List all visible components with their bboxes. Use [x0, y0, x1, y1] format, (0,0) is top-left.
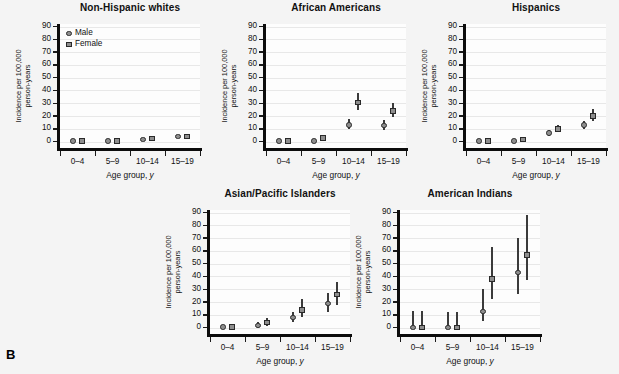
y-tick	[393, 289, 397, 290]
y-tick	[459, 39, 463, 40]
x-tick	[540, 337, 541, 342]
error-bar	[517, 238, 518, 294]
y-tick	[393, 237, 397, 238]
chart-panel: American Indians0102030405060708090Incid…	[348, 188, 554, 374]
x-tick	[200, 151, 201, 156]
gridline	[466, 129, 606, 130]
y-axis-label: Incidence per 100,000person-years	[420, 24, 438, 148]
y-tick	[53, 26, 57, 27]
x-tick	[165, 151, 166, 156]
x-tick-label: 10–14	[130, 157, 165, 166]
gridline	[210, 289, 350, 290]
data-point-male	[70, 138, 76, 144]
chart-title: Non-Hispanic whites	[60, 2, 200, 13]
gridline	[60, 52, 200, 53]
x-tick	[95, 151, 96, 156]
gridline	[210, 315, 350, 316]
panel-letter: B	[6, 347, 15, 362]
x-tick-label: 15–19	[315, 343, 350, 352]
y-tick	[203, 250, 207, 251]
data-point-female	[355, 100, 361, 106]
y-axis	[57, 24, 60, 151]
data-point-female	[489, 276, 495, 282]
gridline	[60, 129, 200, 130]
x-axis-label-text: Age group,	[512, 170, 555, 180]
y-tick	[259, 39, 263, 40]
x-tick-label: 0–4	[60, 157, 95, 166]
data-point-male	[476, 138, 482, 144]
y-tick	[459, 90, 463, 91]
y-tick	[393, 327, 397, 328]
y-tick	[259, 51, 263, 52]
y-axis	[263, 24, 266, 151]
data-point-female	[590, 113, 596, 119]
x-tick-label: 10–14	[536, 157, 571, 166]
x-tick	[466, 151, 467, 156]
data-point-female	[454, 325, 460, 331]
y-axis-label-line1: Incidence per 100,000	[164, 210, 173, 334]
gridline	[60, 116, 200, 117]
x-tick	[245, 337, 246, 342]
y-tick	[393, 225, 397, 226]
data-point-male	[105, 138, 111, 144]
x-axis-label-text: Age group,	[312, 170, 355, 180]
y-tick	[53, 64, 57, 65]
x-tick-label: 5–9	[501, 157, 536, 166]
gridline	[400, 213, 540, 214]
data-point-female	[264, 320, 270, 326]
x-tick	[606, 151, 607, 156]
gridline	[210, 276, 350, 277]
plot-area	[466, 24, 606, 148]
y-tick	[393, 250, 397, 251]
y-axis-label-line2: person-years	[173, 210, 182, 334]
y-tick	[459, 51, 463, 52]
gridline	[210, 238, 350, 239]
y-tick	[53, 141, 57, 142]
gridline	[400, 276, 540, 277]
y-tick	[459, 64, 463, 65]
data-point-male	[581, 122, 587, 128]
data-point-female	[320, 135, 326, 141]
y-tick	[259, 64, 263, 65]
x-axis-label-text: Age group,	[446, 356, 489, 366]
y-tick	[459, 115, 463, 116]
data-point-male	[140, 137, 146, 143]
x-axis-label: Age group, y	[400, 356, 540, 366]
y-axis-label-line1: Incidence per 100,000	[14, 24, 23, 148]
x-axis-label-text: Age group,	[256, 356, 299, 366]
data-point-male	[511, 138, 517, 144]
y-tick	[459, 26, 463, 27]
y-tick	[259, 128, 263, 129]
data-point-female	[555, 126, 561, 132]
data-point-female	[485, 138, 491, 144]
legend-label: Female	[75, 39, 102, 48]
x-tick-label: 0–4	[400, 343, 435, 352]
x-axis-label: Age group, y	[60, 170, 200, 180]
x-axis-label-variable: y	[150, 170, 154, 180]
y-axis-label-line1: Incidence per 100,000	[420, 24, 429, 148]
gridline	[266, 65, 406, 66]
data-point-male	[546, 130, 552, 136]
data-point-male	[290, 315, 296, 321]
y-tick	[53, 77, 57, 78]
gridline	[466, 103, 606, 104]
x-axis-label-text: Age group,	[106, 170, 149, 180]
gridline	[60, 103, 200, 104]
x-tick	[60, 151, 61, 156]
x-tick	[400, 337, 401, 342]
x-tick-label: 10–14	[470, 343, 505, 352]
y-tick	[393, 314, 397, 315]
x-tick-label: 10–14	[280, 343, 315, 352]
gridline	[400, 302, 540, 303]
y-axis-label-line2: person-years	[229, 24, 238, 148]
data-point-female	[520, 137, 526, 143]
x-axis-label: Age group, y	[266, 170, 406, 180]
gridline	[210, 213, 350, 214]
y-tick	[203, 212, 207, 213]
y-axis-label: Incidence per 100,000person-years	[354, 210, 372, 334]
chart-title: American Indians	[400, 188, 540, 199]
x-tick	[371, 151, 372, 156]
chart-panel: Asian/Pacific Islanders01020304050607080…	[158, 188, 364, 374]
y-tick	[53, 51, 57, 52]
y-tick	[203, 327, 207, 328]
